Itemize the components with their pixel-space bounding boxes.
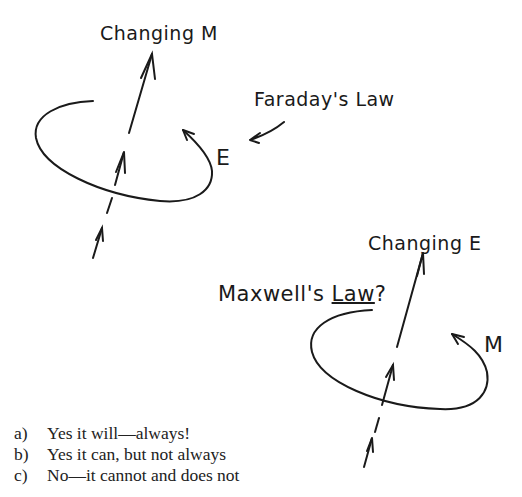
maxwells-law-suffix: ?	[375, 282, 387, 306]
maxwell-loop	[311, 310, 487, 409]
option-b: b) Yes it can, but not always	[14, 444, 239, 465]
option-a: a) Yes it will—always!	[14, 423, 239, 444]
maxwells-law-underlined: Law	[332, 282, 375, 306]
faraday-pointer-arrow	[250, 122, 284, 143]
diagram-canvas: Changing M Faraday's Law E Changing E Ma…	[0, 0, 522, 497]
e-field-label: E	[216, 145, 230, 170]
option-text: No—it cannot and does not	[47, 465, 239, 486]
maxwells-law-label: Maxwell's Law?	[218, 282, 386, 306]
changing-m-axis	[93, 54, 155, 258]
changing-m-label: Changing M	[100, 22, 218, 44]
answer-options: a) Yes it will—always! b) Yes it can, bu…	[14, 423, 239, 486]
option-key: a)	[14, 423, 47, 444]
maxwells-law-prefix: Maxwell's	[218, 282, 332, 306]
option-text: Yes it can, but not always	[47, 444, 226, 465]
option-key: c)	[14, 465, 47, 486]
m-field-label: M	[484, 332, 503, 357]
faradays-law-label: Faraday's Law	[254, 88, 395, 110]
changing-e-label: Changing E	[368, 232, 481, 254]
option-c: c) No—it cannot and does not	[14, 465, 239, 486]
option-key: b)	[14, 444, 47, 465]
option-text: Yes it will—always!	[47, 423, 190, 444]
